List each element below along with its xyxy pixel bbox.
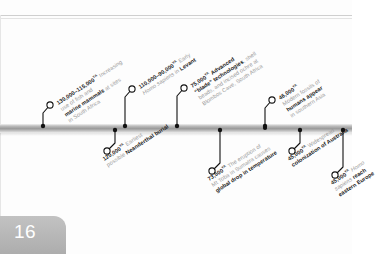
ya-unit: YA [292, 83, 298, 89]
timeline-event-fish-marine-mammals[interactable] [41, 102, 53, 128]
timeline-event-modern-fossils-southern-asia[interactable] [263, 97, 275, 128]
event-dot [218, 128, 222, 132]
event-dot [263, 124, 267, 128]
page-number: 16 [14, 221, 36, 243]
event-leader-line [177, 88, 184, 126]
timeline-event-homo-sapiens-levant[interactable] [123, 86, 135, 128]
event-marker-circle [181, 85, 187, 91]
event-dot [41, 124, 45, 128]
event-marker-circle [129, 86, 135, 92]
event-leader-line [265, 100, 272, 126]
event-marker-circle [47, 102, 53, 108]
timeline-event-blade-technologies-blombos[interactable] [175, 85, 187, 128]
event-dot [175, 124, 179, 128]
event-leader-line [125, 89, 132, 126]
event-leader-line [212, 130, 220, 171]
event-dot [123, 124, 127, 128]
event-dot [113, 128, 117, 132]
event-marker-circle [269, 97, 275, 103]
event-dot [298, 128, 302, 132]
